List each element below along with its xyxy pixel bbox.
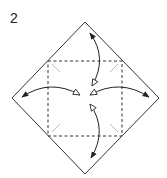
crease-mark-bottom-left bbox=[52, 124, 60, 132]
fold-top-corner-arrow bbox=[90, 33, 100, 86]
fold-bottom-corner-arrow bbox=[90, 104, 99, 158]
paper-outline bbox=[12, 22, 159, 174]
fold-left-corner-arrow bbox=[22, 87, 80, 97]
fold-arrows bbox=[22, 33, 149, 158]
crease-mark-bottom-right bbox=[110, 124, 118, 132]
fold-right-corner-arrow bbox=[90, 87, 149, 97]
crease-mark-top-right bbox=[110, 64, 118, 72]
crease-mark-top-left bbox=[52, 64, 60, 72]
crease-marks bbox=[52, 64, 118, 132]
origami-diagram bbox=[0, 0, 167, 178]
